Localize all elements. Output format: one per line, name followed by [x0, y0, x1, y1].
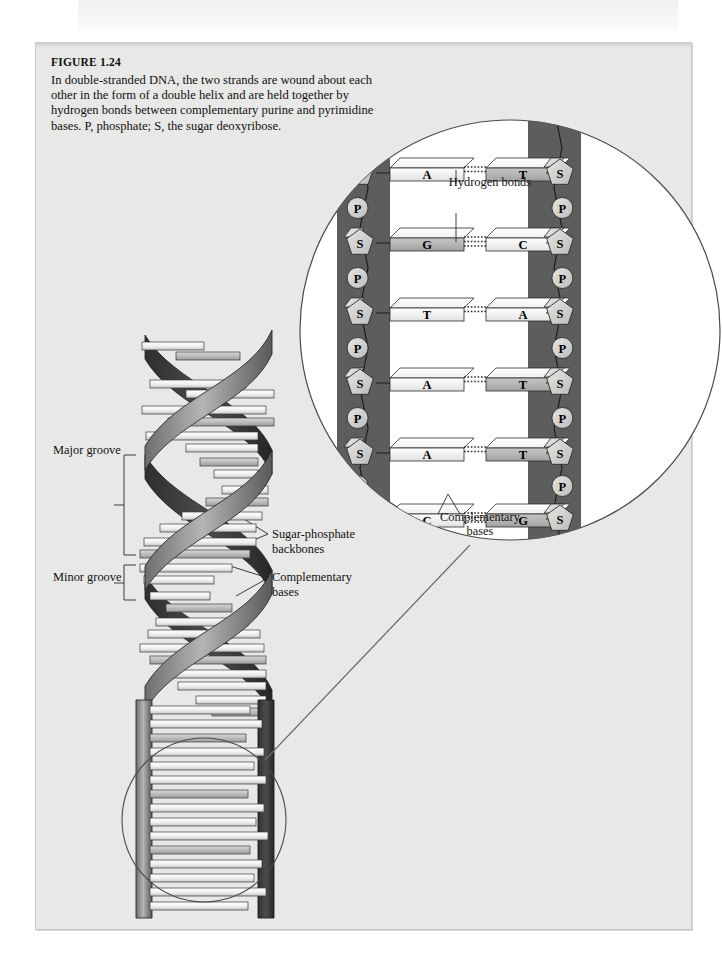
inset-complementary-line-2: bases — [425, 524, 535, 538]
base-letter-left: G — [422, 238, 432, 252]
phosphate-unit: P — [552, 198, 573, 219]
base-letter-left: A — [422, 378, 431, 392]
sugar-unit: S — [344, 158, 373, 184]
sugar-label: S — [357, 237, 364, 251]
phosphate-label: P — [559, 480, 567, 494]
phosphate-label: P — [559, 342, 567, 356]
phosphate-label: P — [354, 412, 362, 426]
phosphate-unit: P — [347, 268, 368, 289]
figure-number: FIGURE 1.24 — [51, 56, 381, 68]
phosphate-unit: P — [552, 338, 573, 359]
phosphate-label: P — [354, 480, 362, 494]
complementary-bases-line-2: bases — [272, 585, 392, 600]
base-letter-right: T — [519, 448, 528, 462]
base-letter-right: C — [518, 238, 527, 252]
hydrogen-bonds-label: Hydrogen bonds — [430, 175, 550, 189]
phosphate-unit: P — [552, 476, 573, 497]
phosphate-label: P — [354, 202, 362, 216]
page-top-strip — [78, 0, 678, 30]
sugar-label: S — [357, 377, 364, 391]
sugar-label: S — [557, 377, 564, 391]
base-letter-right: T — [519, 378, 528, 392]
phosphate-label: P — [559, 272, 567, 286]
base-letter-left: A — [422, 448, 431, 462]
base-letter-right: A — [518, 308, 527, 322]
phosphate-label: P — [354, 272, 362, 286]
complementary-bases-line-1: Complementary — [272, 570, 392, 585]
sugar-label: S — [557, 307, 564, 321]
sugar-label: S — [557, 237, 564, 251]
base-letter-left: T — [423, 308, 432, 322]
sugar-unit: S — [344, 504, 373, 530]
major-groove-label: Major groove — [53, 443, 121, 458]
phosphate-unit: P — [347, 198, 368, 219]
phosphate-unit: P — [347, 338, 368, 359]
complementary-bases-label: Complementary bases — [272, 570, 392, 599]
sugar-label: S — [557, 447, 564, 461]
inset-complementary-bases-label: Complementary bases — [425, 510, 535, 538]
phosphate-unit: P — [552, 268, 573, 289]
sugar-label: S — [357, 167, 364, 181]
phosphate-label: P — [559, 202, 567, 216]
sugar-label: S — [357, 307, 364, 321]
phosphate-label: P — [354, 342, 362, 356]
sugar-phosphate-line-2: backbones — [272, 542, 392, 557]
phosphate-unit: P — [347, 408, 368, 429]
phosphate-label: P — [559, 412, 567, 426]
minor-groove-label: Minor groove — [53, 570, 121, 585]
sugar-label: S — [557, 513, 564, 527]
sugar-label: S — [557, 167, 564, 181]
sugar-label: S — [357, 447, 364, 461]
inset-complementary-line-1: Complementary — [425, 510, 535, 524]
phosphate-unit: P — [347, 476, 368, 497]
sugar-label: S — [357, 513, 364, 527]
phosphate-unit: P — [552, 408, 573, 429]
